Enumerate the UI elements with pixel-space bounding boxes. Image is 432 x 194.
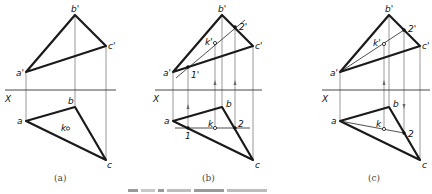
- label-b-prime: b': [71, 4, 79, 14]
- label-b: b: [226, 99, 232, 109]
- point-2-marker: [402, 131, 405, 134]
- caption-b: (b): [202, 173, 215, 183]
- label-x-axis: X: [4, 94, 12, 104]
- label-k: k: [376, 119, 382, 129]
- point-k-marker: [213, 126, 216, 129]
- label-a: a: [164, 116, 170, 126]
- panel-a: b' c' a' X b a k c (a): [4, 4, 116, 183]
- label-x-axis: X: [152, 94, 160, 104]
- label-b: b: [68, 96, 74, 106]
- label-c-prime: c': [422, 41, 429, 51]
- top-view-triangle: [26, 107, 106, 160]
- label-a-prime: a': [330, 68, 338, 78]
- label-c-prime: c': [108, 41, 115, 51]
- label-1-prime: 1': [191, 70, 199, 80]
- label-c-prime: c': [255, 41, 262, 51]
- projection-diagram: b' c' a' X b a k c (a): [0, 0, 432, 194]
- label-k-prime: k': [205, 37, 213, 47]
- label-b: b: [393, 99, 399, 109]
- point-2-prime-marker: [233, 25, 236, 28]
- label-a-prime: a': [163, 68, 171, 78]
- caption-a: (a): [54, 173, 66, 183]
- point-1-prime-marker: [186, 65, 189, 68]
- arrow-up-k: [214, 80, 217, 85]
- label-a-prime: a': [16, 68, 24, 78]
- label-c: c: [107, 160, 112, 170]
- label-2: 2: [238, 119, 244, 129]
- point-k-marker: [382, 127, 385, 130]
- label-2: 2: [408, 129, 414, 139]
- clipped-figure-caption: [128, 189, 304, 194]
- point-k-marker: [66, 127, 69, 130]
- point-1-marker: [186, 126, 189, 129]
- label-a: a: [17, 116, 23, 126]
- panel-b: b' c' a' k' 1' 2' X b a k 1 2 c (b): [152, 4, 262, 183]
- point-k-prime-marker: [382, 42, 385, 45]
- label-b-prime: b': [218, 4, 226, 14]
- auxiliary-line-top: [340, 121, 404, 133]
- label-c: c: [255, 160, 260, 170]
- label-k-prime: k': [373, 38, 381, 48]
- front-view-triangle: [26, 15, 106, 72]
- arrow-up-k: [383, 80, 386, 85]
- label-2-prime: 2': [408, 24, 416, 34]
- arrow-down-2: [403, 104, 406, 109]
- label-b-prime: b': [385, 4, 393, 14]
- label-a: a: [331, 116, 337, 126]
- label-1: 1: [185, 131, 191, 141]
- label-c: c: [422, 160, 427, 170]
- arrow-up-2: [234, 80, 237, 85]
- point-2-marker: [233, 126, 236, 129]
- label-k: k: [61, 123, 67, 133]
- point-k-prime-marker: [213, 41, 216, 44]
- arrow-up-1: [187, 104, 190, 109]
- label-2-prime: 2': [239, 22, 247, 32]
- panel-c: b' c' a' k' 2' X b a k 2 c (c): [321, 4, 430, 183]
- caption-c: (c): [368, 173, 380, 183]
- label-x-axis: X: [321, 94, 329, 104]
- point-2-prime-marker: [402, 28, 405, 31]
- label-k: k: [208, 119, 214, 129]
